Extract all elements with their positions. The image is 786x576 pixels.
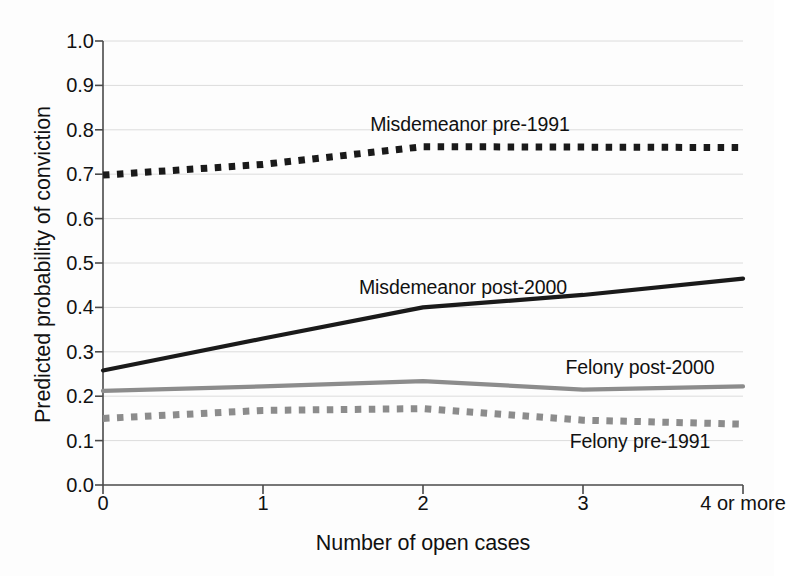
- x-tick-label-0: 0: [97, 492, 108, 515]
- series-line-3: [103, 409, 743, 425]
- x-axis-title: Number of open cases: [103, 531, 743, 556]
- x-tick-label-3: 3: [577, 492, 588, 515]
- series-line-2: [103, 381, 743, 391]
- series-label-felony-post-2000: Felony post-2000: [565, 356, 714, 379]
- x-tick-label-1: 1: [257, 492, 268, 515]
- series-label-misdemeanor-post-2000: Misdemeanor post-2000: [359, 276, 567, 299]
- series-line-0: [103, 147, 743, 175]
- x-tick-label-2: 2: [417, 492, 428, 515]
- series-label-misdemeanor-pre-1991: Misdemeanor pre-1991: [370, 113, 570, 136]
- x-tick-label-4: 4 or more: [700, 492, 786, 515]
- series-label-felony-pre-1991: Felony pre-1991: [570, 430, 711, 453]
- y-axis-title: Predicted probability of conviction: [31, 50, 56, 480]
- y-axis-ticks: [95, 41, 103, 485]
